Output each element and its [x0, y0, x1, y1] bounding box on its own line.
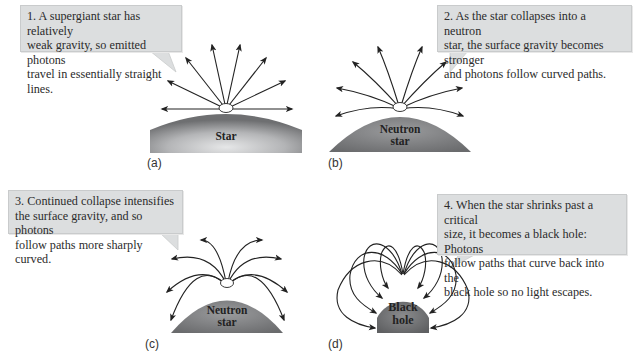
callout-a: 1. A supergiant star has relatively weak…: [20, 5, 182, 52]
emission-point: [219, 104, 233, 113]
callout-d-line-2: size, it becomes a black hole: Photons: [444, 227, 621, 256]
black-hole-label: Black hole: [378, 301, 428, 327]
neutron-label-c-line-2: star: [197, 316, 257, 328]
callout-pointers: [150, 51, 478, 268]
neutron-label-c-line-1: Neutron: [197, 304, 257, 316]
callout-d-line-4: black hole so no light escapes.: [444, 285, 621, 300]
panel-label-a: (a): [147, 156, 162, 170]
star-label-text: Star: [215, 130, 236, 142]
panel-label-c: (c): [145, 337, 159, 351]
callout-d: 4. When the star shrinks past a critical…: [437, 194, 627, 255]
callout-d-line-1: 4. When the star shrinks past a critical: [444, 198, 621, 227]
photon-arrows-straight: [162, 45, 292, 109]
emission-point: [393, 103, 407, 112]
callout-b-line-3: and photons follow curved paths.: [444, 67, 626, 82]
callout-a-line-1: 1. A supergiant star has relatively: [27, 9, 176, 38]
black-hole-label-line-2: hole: [378, 314, 428, 327]
neutron-label-b-line-2: star: [370, 135, 430, 147]
panel-label-d: (d): [328, 337, 343, 351]
panel-label-b: (b): [328, 156, 343, 170]
neutron-label-b-line-1: Neutron: [370, 123, 430, 135]
callout-a-line-2: weak gravity, so emitted photons: [27, 38, 176, 67]
callout-c-line-3: follow paths more sharply curved.: [15, 238, 177, 267]
star-label: Star: [206, 130, 246, 142]
callout-d-line-3: follow paths that curve back into the: [444, 256, 621, 285]
callout-b-line-1: 2. As the star collapses into a neutron: [444, 9, 626, 38]
callout-c-line-1: 3. Continued collapse intensifies: [15, 194, 177, 209]
callout-c: 3. Continued collapse intensifies the su…: [8, 190, 183, 234]
callout-a-line-3: travel in essentially straight lines.: [27, 67, 176, 96]
callout-b-line-2: star, the surface gravity becomes strong…: [444, 38, 626, 67]
callout-b: 2. As the star collapses into a neutron …: [437, 5, 632, 52]
neutron-star-label-b: Neutron star: [370, 123, 430, 147]
emission-point: [221, 279, 234, 288]
callout-c-line-2: the surface gravity, and so photons: [15, 209, 177, 238]
neutron-star-label-c: Neutron star: [197, 304, 257, 328]
